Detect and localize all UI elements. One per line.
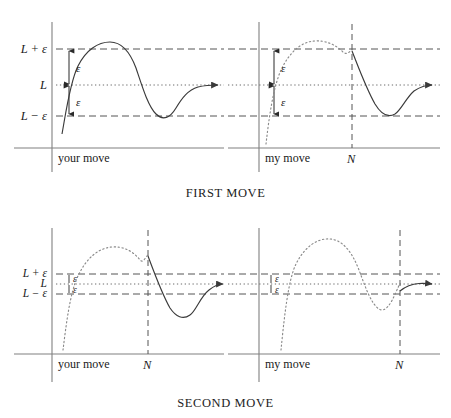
sequence-curve-solid-top-right xyxy=(352,51,432,116)
epsilon-label-lower-bottom-right: ε xyxy=(275,285,279,295)
N-label-top-right: N xyxy=(346,152,356,166)
panel-top-right: ε ε my move N xyxy=(228,22,440,172)
panel-bottom-right: ε ε my move N xyxy=(228,228,440,382)
caption-first-move: FIRST MOVE xyxy=(0,186,451,201)
x-axis-label-bottom-right: my move xyxy=(265,357,310,371)
x-axis-label-bottom-left: your move xyxy=(58,357,110,371)
sequence-curve-dotted-top-right xyxy=(266,41,352,144)
label-lower-bound-bottom-left: L − ε xyxy=(22,287,48,299)
sequence-curve-dotted-bottom-left xyxy=(63,247,148,350)
epsilon-label-upper-top-left: ε xyxy=(76,62,81,74)
epsilon-label-upper-top-right: ε xyxy=(281,62,286,74)
caption-second-move: SECOND MOVE xyxy=(0,396,451,411)
N-label-bottom-right: N xyxy=(394,358,404,372)
N-label-bottom-left: N xyxy=(142,358,152,372)
x-axis-label-top-right: my move xyxy=(265,151,310,165)
epsilon-label-upper-bottom-left: ε xyxy=(73,274,77,284)
epsilon-label-upper-bottom-right: ε xyxy=(275,274,279,284)
x-axis-label-top-left: your move xyxy=(58,151,110,165)
label-lower-bound-top-left: L − ε xyxy=(20,109,47,123)
sequence-curve-solid-bottom-right xyxy=(400,283,432,291)
panel-top-left: L + ε L L − ε ε ε your move xyxy=(14,22,224,172)
limit-definition-figure: L + ε L L − ε ε ε your move ε ε my move … xyxy=(0,0,451,418)
epsilon-label-lower-top-right: ε xyxy=(281,96,286,108)
epsilon-label-lower-bottom-left: ε xyxy=(73,285,77,295)
sequence-curve-top-left xyxy=(62,42,218,134)
figure-canvas: L + ε L L − ε ε ε your move ε ε my move … xyxy=(0,0,451,418)
epsilon-label-lower-top-left: ε xyxy=(76,96,81,108)
label-limit-top-left: L xyxy=(39,78,47,92)
label-upper-bound-top-left: L + ε xyxy=(20,42,47,56)
sequence-curve-solid-bottom-left xyxy=(148,256,223,317)
panel-bottom-left: L + ε L L − ε ε ε your move N xyxy=(14,228,224,382)
